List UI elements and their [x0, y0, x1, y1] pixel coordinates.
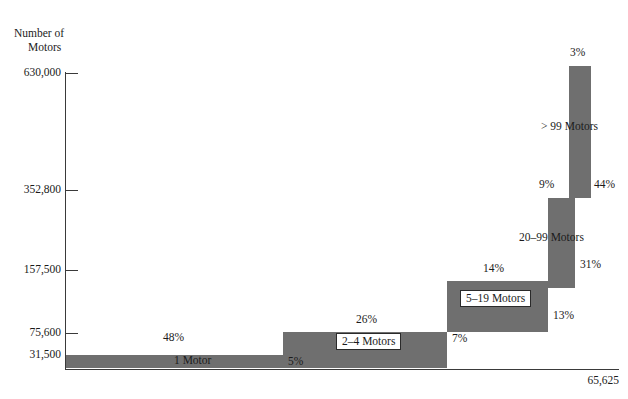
y-tick-mark-75600 [66, 333, 78, 334]
pct-right-gt-99-motors: 44% [594, 178, 615, 190]
y-axis-title-line1: Number of [14, 27, 64, 39]
y-tick-label-157500: 157,500 [0, 263, 61, 275]
pct-above-5-19-motors: 14% [483, 262, 504, 274]
y-axis-title: Number of Motors [14, 26, 64, 54]
pct-right-5-19-motors: 13% [553, 309, 574, 321]
category-label-1-motor: 1 Motor [174, 354, 211, 366]
pct-above-20-99-motors: 9% [539, 178, 554, 190]
pct-above-2-4-motors: 26% [356, 313, 377, 325]
y-axis-title-line2: Motors [14, 40, 64, 54]
y-tick-label-352800: 352,800 [0, 183, 61, 195]
x-axis-end-label: 65,625 [587, 374, 619, 386]
category-label-20-99-motors: 20–99 Motors [519, 231, 584, 243]
y-tick-label-630000: 630,000 [0, 66, 61, 78]
pct-right-20-99-motors: 31% [580, 258, 601, 270]
y-tick-label-31500: 31,500 [0, 348, 61, 360]
pct-above-gt-99-motors: 3% [570, 46, 585, 58]
category-label-2-4-motors: 2–4 Motors [336, 333, 401, 350]
pct-right-1-motor: 5% [288, 355, 303, 367]
y-tick-mark-630000 [66, 73, 78, 74]
y-axis-line [65, 72, 66, 369]
y-tick-mark-352800 [66, 190, 78, 191]
staircase-chart: Number of Motors 630,000 352,800 157,500… [0, 0, 628, 399]
bar-20-99-motors [548, 198, 575, 288]
category-label-5-19-motors: 5–19 Motors [460, 290, 531, 307]
x-axis-line [65, 369, 619, 370]
pct-right-2-4-motors: 7% [452, 332, 467, 344]
bar-gt-99-motors [569, 66, 591, 198]
category-label-gt-99-motors: > 99 Motors [541, 120, 598, 132]
y-tick-label-75600: 75,600 [0, 326, 61, 338]
y-tick-mark-157500 [66, 270, 78, 271]
pct-above-1-motor: 48% [163, 331, 184, 343]
